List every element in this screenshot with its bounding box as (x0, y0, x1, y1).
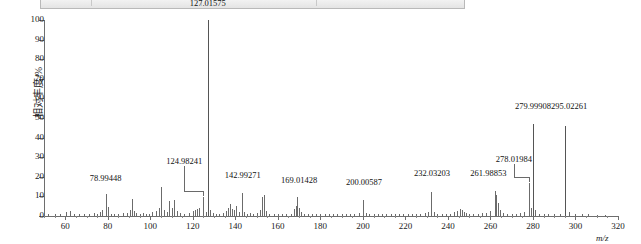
peak-bar (228, 208, 229, 216)
peak-label: 169.01428 (269, 176, 329, 185)
x-tick-minor (87, 216, 88, 218)
x-tick-minor (544, 216, 545, 218)
peak-bar (299, 208, 300, 216)
x-tick-minor (310, 216, 311, 218)
x-tick-minor (257, 216, 258, 218)
x-tick-minor (512, 216, 513, 218)
peak-bar (111, 214, 112, 216)
cropped-toolbar-strip[interactable] (40, 0, 465, 9)
x-tick-minor (140, 216, 141, 218)
x-tick-minor (225, 216, 226, 218)
peak-bar (210, 210, 211, 216)
peak-bar (301, 212, 302, 216)
peak-bar (403, 214, 404, 216)
peak-bar (325, 214, 326, 216)
x-tick-minor (172, 216, 173, 218)
x-tick-mark (320, 216, 321, 220)
peak-bar (213, 213, 214, 216)
peak-bar (242, 193, 243, 216)
peak-bar (114, 214, 115, 216)
peak-bar (199, 208, 200, 216)
peak-bar (123, 213, 124, 216)
x-tick-minor (246, 216, 247, 218)
peak-bar (55, 214, 56, 216)
x-tick-mark (448, 216, 449, 220)
peak-label: 78.99448 (76, 174, 136, 183)
x-tick-minor (97, 216, 98, 218)
peak-bar (118, 214, 119, 216)
peak-bar (582, 214, 583, 216)
x-tick-mark (490, 216, 491, 220)
peak-bar (450, 214, 451, 216)
peak-bar (291, 214, 292, 216)
toolbar-divider-1 (47, 0, 92, 6)
peak-bar (524, 212, 525, 216)
x-tick-minor (129, 216, 130, 218)
peak-bar (250, 213, 251, 216)
peak-bar (149, 214, 150, 216)
x-tick-label: 140 (215, 221, 255, 231)
x-tick-label: 60 (45, 221, 85, 231)
peak-bar (189, 213, 190, 216)
peak-bar (70, 211, 71, 216)
x-tick-minor (331, 216, 332, 218)
peak-bar (97, 214, 98, 216)
peak-series (0, 20, 641, 216)
peak-bar (234, 210, 235, 216)
peak-bar (342, 214, 343, 216)
peak-label: 295.02261 (539, 102, 599, 111)
peak-bar (94, 213, 95, 216)
x-tick-minor (416, 216, 417, 218)
x-tick-minor (395, 216, 396, 218)
peak-bar (420, 214, 421, 216)
peak-bar (132, 199, 133, 216)
peak-bar (156, 211, 157, 216)
x-tick-minor (182, 216, 183, 218)
peak-bar (180, 213, 181, 216)
spectrum-plot: 0102030405060708090100 60801001201401601… (0, 9, 641, 244)
x-tick-label: 100 (130, 221, 170, 231)
peak-bar (159, 208, 160, 216)
peak-label: 142.99271 (213, 171, 273, 180)
peak-bar (89, 214, 90, 216)
peak-label: 261.98853 (458, 169, 518, 178)
peak-bar (503, 213, 504, 216)
peak-bar (66, 212, 67, 216)
peak-bar (146, 214, 147, 216)
x-tick-mark (65, 216, 66, 220)
leader-line (203, 191, 204, 196)
peak-bar (269, 214, 270, 216)
peak-bar (490, 211, 491, 216)
peak-bar (539, 214, 540, 216)
peak-bar (316, 214, 317, 216)
x-tick-minor (352, 216, 353, 218)
peak-bar (462, 210, 463, 216)
peak-bar (197, 209, 198, 216)
peak-bar (136, 213, 137, 216)
peak-bar (297, 197, 298, 216)
peak-bar (127, 213, 128, 216)
peak-bar (391, 214, 392, 216)
peak-bar (446, 214, 447, 216)
peak-bar (560, 214, 561, 216)
peak-bar (195, 210, 196, 216)
peak-bar (193, 211, 194, 216)
peak-bar (161, 187, 162, 216)
peak-bar (466, 213, 467, 216)
x-tick-minor (384, 216, 385, 218)
x-tick-minor (267, 216, 268, 218)
x-tick-minor (459, 216, 460, 218)
peak-label: 278.01984 (484, 155, 544, 164)
peak-bar (108, 207, 109, 216)
peak-bar (282, 214, 283, 216)
x-tick-minor (44, 216, 45, 218)
peak-bar (416, 214, 417, 216)
peak-bar (239, 212, 240, 216)
peak-bar (60, 214, 61, 216)
peak-bar (232, 209, 233, 216)
leader-line (184, 166, 185, 191)
peak-bar (226, 211, 227, 216)
peak-bar (507, 214, 508, 216)
peak-bar (428, 212, 429, 216)
x-tick-minor (76, 216, 77, 218)
